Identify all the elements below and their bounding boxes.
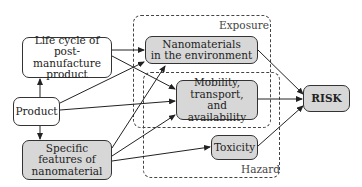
node-product: Product: [13, 97, 60, 126]
edge-features-mobility: [112, 115, 175, 156]
node-life-cycle: Life cycle of post-manufacture product: [22, 37, 112, 78]
edge-features-nanoenv: [112, 66, 165, 148]
node-life-cycle-line-2: post-manufacture: [23, 46, 111, 69]
node-risk: RISK: [303, 85, 350, 112]
node-nanomaterials-environment: Nanomaterials in the environment: [145, 36, 258, 64]
node-toxicity: Toxicity: [211, 135, 258, 160]
node-product-label: Product: [16, 106, 58, 118]
node-mobility-line-3: and availability: [177, 100, 257, 123]
node-features-line-3: nanomaterial: [32, 166, 103, 178]
node-toxicity-label: Toxicity: [214, 142, 255, 154]
node-mobility: Mobility, transport, and availability: [176, 80, 258, 120]
edge-nanoenv-risk: [258, 50, 303, 94]
edge-toxicity-risk: [258, 106, 303, 146]
node-risk-label: RISK: [311, 93, 341, 105]
node-mobility-line-1: Mobility,: [177, 77, 257, 89]
node-life-cycle-line-3: product: [23, 69, 111, 81]
node-specific-features: Specific features of nanomaterial: [22, 140, 112, 180]
edge-product-mobility: [60, 101, 175, 110]
edge-features-toxicity: [112, 147, 210, 161]
node-nanoenv-line-2: in the environment: [151, 50, 253, 62]
risk-diagram: Exposure Hazard: [0, 0, 362, 187]
